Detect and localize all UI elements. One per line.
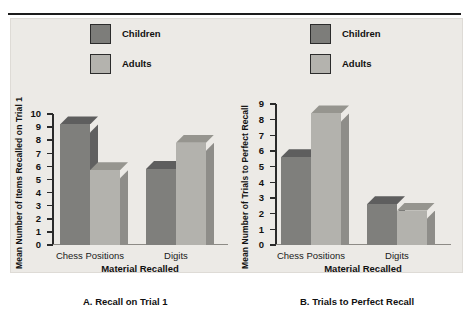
bar-front-face [397, 211, 427, 245]
y-tick: 8 [47, 139, 53, 141]
y-tick-label: 1 [259, 223, 264, 234]
legend-swatch-adults-icon [310, 54, 331, 74]
y-tick-label: 8 [259, 113, 264, 124]
x-category-label: Digits [353, 250, 441, 261]
y-axis-line-b [275, 104, 277, 245]
caption-b: B. Trials to Perfect Recall [300, 296, 414, 307]
legend-swatch-adults-icon [90, 54, 111, 74]
y-tick: 6 [270, 150, 276, 152]
x-category-label: Chess Positions [267, 250, 355, 261]
y-tick: 0 [47, 244, 53, 246]
bar-children-digits [367, 204, 397, 245]
x-category-label: Digits [132, 250, 220, 261]
y-tick-label: 4 [36, 186, 41, 197]
bar-children-digits [146, 169, 176, 245]
chart-panel-a: Mean Number of Items Recalled on Trial 1… [11, 19, 239, 272]
bar-front-face [176, 143, 206, 245]
y-tick-label: 9 [36, 121, 41, 132]
legend-item-children-a: Children [90, 22, 161, 45]
bar-side-face [120, 170, 128, 245]
x-axis-title-b: Material Recalled [275, 263, 451, 274]
y-tick-label: 5 [36, 173, 41, 184]
x-axis-title-a: Material Recalled [52, 263, 228, 274]
legend-label-children: Children [122, 28, 161, 39]
plot-area-a: 012345678910Chess PositionsDigits [52, 114, 228, 245]
y-tick: 9 [270, 103, 276, 105]
bar-side-face [341, 113, 349, 245]
y-tick: 4 [47, 192, 53, 194]
y-tick-label: 0 [259, 239, 264, 250]
bar-front-face [311, 113, 341, 245]
plot-area-b: 0123456789Chess PositionsDigits [275, 104, 451, 245]
y-tick: 7 [47, 153, 53, 155]
y-tick: 1 [270, 229, 276, 231]
legend-item-adults-a: Adults [90, 52, 161, 75]
bar-adults-chess-positions [311, 113, 341, 245]
bar-top-face [176, 135, 214, 143]
y-axis-title-b: Mean Number of Trials to Perfect Recall [241, 47, 250, 269]
y-tick: 5 [270, 166, 276, 168]
y-tick-label: 4 [259, 176, 264, 187]
charts-plate: Mean Number of Items Recalled on Trial 1… [10, 18, 463, 273]
y-tick-label: 3 [36, 199, 41, 210]
bar-front-face [146, 169, 176, 245]
y-tick: 0 [270, 244, 276, 246]
bar-front-face [367, 204, 397, 245]
bar-children-chess-positions [60, 124, 90, 245]
y-tick: 6 [47, 166, 53, 168]
bar-side-face [427, 211, 435, 245]
y-tick-label: 2 [259, 207, 264, 218]
y-tick: 3 [47, 205, 53, 207]
y-tick-label: 2 [36, 213, 41, 224]
y-tick: 10 [47, 113, 53, 115]
y-tick-label: 10 [30, 108, 41, 119]
caption-a: A. Recall on Trial 1 [83, 296, 167, 307]
legend-label-adults: Adults [342, 58, 372, 69]
legend-b: Children Adults [310, 22, 381, 82]
chart-panel-b: Mean Number of Trials to Perfect Recall … [239, 19, 462, 272]
bar-children-chess-positions [281, 157, 311, 245]
bar-top-face [367, 196, 405, 204]
y-tick-label: 6 [259, 145, 264, 156]
y-tick: 3 [270, 197, 276, 199]
legend-a: Children Adults [90, 22, 161, 82]
bar-adults-digits [176, 143, 206, 245]
x-category-label: Chess Positions [46, 250, 134, 261]
bar-side-face [206, 143, 214, 245]
legend-label-adults: Adults [122, 58, 152, 69]
y-tick-label: 0 [36, 239, 41, 250]
legend-label-children: Children [342, 28, 381, 39]
y-tick-label: 8 [36, 134, 41, 145]
y-tick-label: 1 [36, 226, 41, 237]
y-tick: 9 [47, 126, 53, 128]
y-tick-label: 3 [259, 192, 264, 203]
figure-container: Mean Number of Items Recalled on Trial 1… [0, 0, 469, 324]
y-tick: 2 [47, 218, 53, 220]
y-tick: 5 [47, 179, 53, 181]
bar-adults-chess-positions [90, 170, 120, 245]
y-tick-label: 5 [259, 160, 264, 171]
bar-top-face [60, 116, 98, 124]
y-tick: 1 [47, 231, 53, 233]
legend-item-adults-b: Adults [310, 52, 381, 75]
bar-front-face [90, 170, 120, 245]
y-tick-label: 6 [36, 160, 41, 171]
y-tick: 8 [270, 119, 276, 121]
y-tick-label: 9 [259, 98, 264, 109]
bar-front-face [60, 124, 90, 245]
bar-top-face [311, 105, 349, 113]
legend-swatch-children-icon [90, 24, 111, 44]
y-tick: 2 [270, 213, 276, 215]
bar-front-face [281, 157, 311, 245]
y-tick: 7 [270, 135, 276, 137]
bar-adults-digits [397, 211, 427, 245]
legend-swatch-children-icon [310, 24, 331, 44]
bar-top-face [397, 203, 435, 211]
top-divider [8, 13, 461, 15]
y-axis-title-a: Mean Number of Items Recalled on Trial 1 [15, 57, 24, 269]
y-tick-label: 7 [259, 129, 264, 140]
legend-item-children-b: Children [310, 22, 381, 45]
y-tick: 4 [270, 182, 276, 184]
y-tick-label: 7 [36, 147, 41, 158]
